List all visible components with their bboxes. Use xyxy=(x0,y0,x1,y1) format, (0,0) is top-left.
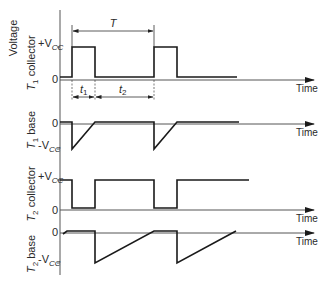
panel-t2-base: T2 base 0 -VCC Time xyxy=(25,226,318,273)
period-label: T xyxy=(110,17,118,29)
t2-label: t2 xyxy=(119,83,127,97)
waveform-t1-base xyxy=(60,122,239,149)
level-label-minus-vcc: -VCC xyxy=(38,139,61,154)
time-label-2: Time xyxy=(296,127,318,138)
waveform-t2-base xyxy=(63,231,236,263)
interval-markers: t1 t2 xyxy=(72,80,154,100)
level-label-minus-vcc: -VCC xyxy=(38,253,61,268)
time-label-1: Time xyxy=(296,83,318,94)
time-label-3: Time xyxy=(296,213,318,224)
level-label-zero: 0 xyxy=(52,204,58,216)
waveform-t2-collector xyxy=(60,180,249,208)
panel-t1-collector: T1 collector +VCC 0 T Time xyxy=(25,17,318,94)
level-label-zero: 0 xyxy=(52,73,58,85)
y-axis-label: Voltage xyxy=(7,20,19,57)
t1-label: t1 xyxy=(80,83,88,97)
multivibrator-waveform-diagram: Voltage T1 collector +VCC 0 T Time t1 t2… xyxy=(0,0,332,292)
panel-t2-collector: T2 collector +VCC 0 Time xyxy=(25,166,318,224)
time-label-4: Time xyxy=(296,236,318,247)
level-label-zero: 0 xyxy=(52,226,58,238)
waveform-t1-collector xyxy=(60,47,237,77)
panel-t1-base: T1 base 0 -VCC Time xyxy=(25,111,318,154)
level-label-zero: 0 xyxy=(52,117,58,129)
